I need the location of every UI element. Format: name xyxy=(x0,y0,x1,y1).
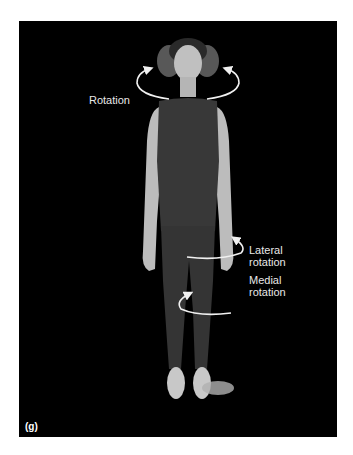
left-foot xyxy=(167,367,185,399)
bodysuit-torso xyxy=(157,98,219,236)
medial-line1: Medial xyxy=(249,274,286,286)
head xyxy=(174,45,202,81)
medial-rotation-label: Medial rotation xyxy=(249,274,286,298)
figure-illustration xyxy=(19,21,337,437)
right-foot-rotated xyxy=(202,381,234,395)
panel-label: (g) xyxy=(25,421,38,432)
lateral-line2: rotation xyxy=(249,256,286,268)
rotation-text: Rotation xyxy=(89,94,130,106)
bodysuit-legs xyxy=(161,226,215,369)
lateral-line1: Lateral xyxy=(249,244,286,256)
medial-line2: rotation xyxy=(249,286,286,298)
rotation-label: Rotation xyxy=(89,94,130,106)
lateral-rotation-label: Lateral rotation xyxy=(249,244,286,268)
anatomy-photo: Rotation Lateral rotation Medial rotatio… xyxy=(19,21,337,437)
neck xyxy=(180,77,196,97)
